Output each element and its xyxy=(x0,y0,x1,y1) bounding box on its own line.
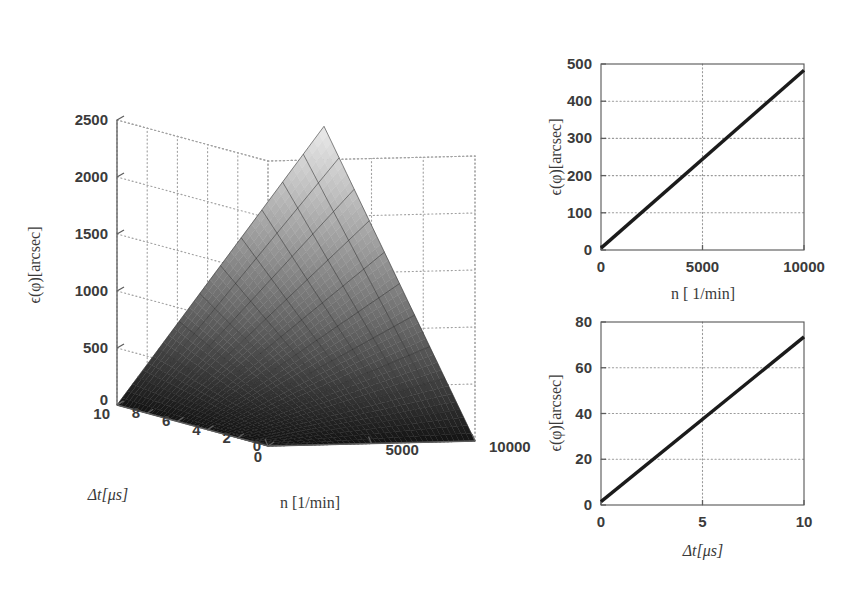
surface3d-ztick xyxy=(117,116,124,120)
line-dt-yaxis-label: ϵ(φ)[arcsec] xyxy=(547,375,565,452)
surface3d-yaxis-label: Δt[μs] xyxy=(87,486,129,504)
svg-text:6: 6 xyxy=(162,412,170,429)
surface3d-box-top xyxy=(117,120,475,161)
line-n-panel: 01002003004005000500010000 ϵ(φ)[arcsec] … xyxy=(547,55,825,302)
figure-canvas: 0500100015002000250002468100500010000 ϵ(… xyxy=(0,0,847,598)
svg-text:100: 100 xyxy=(567,204,592,221)
svg-text:60: 60 xyxy=(575,359,592,376)
svg-text:10: 10 xyxy=(93,405,110,422)
svg-text:20: 20 xyxy=(575,450,592,467)
svg-text:4: 4 xyxy=(192,421,201,438)
svg-text:0: 0 xyxy=(597,513,605,530)
surface3d-ztick xyxy=(117,230,124,234)
surface3d-panel: 0500100015002000250002468100500010000 ϵ(… xyxy=(26,111,531,511)
svg-text:2: 2 xyxy=(222,429,230,446)
line-n-xaxis-label: n [ 1/min] xyxy=(671,285,735,302)
svg-text:2000: 2000 xyxy=(75,168,108,185)
surface3d-ztick xyxy=(117,287,124,291)
svg-text:10000: 10000 xyxy=(489,438,531,455)
svg-text:0: 0 xyxy=(584,241,592,258)
svg-text:5000: 5000 xyxy=(686,258,719,275)
svg-text:500: 500 xyxy=(83,339,108,356)
svg-text:1500: 1500 xyxy=(75,225,108,242)
svg-text:400: 400 xyxy=(567,92,592,109)
line-n-yaxis-label: ϵ(φ)[arcsec] xyxy=(547,119,565,196)
matlab-figure-svg: 0500100015002000250002468100500010000 ϵ(… xyxy=(0,0,847,598)
svg-text:0: 0 xyxy=(254,448,262,465)
svg-text:8: 8 xyxy=(132,404,140,421)
svg-text:10: 10 xyxy=(796,513,813,530)
line-dt-xaxis-label: Δt[μs] xyxy=(682,542,724,560)
svg-text:0: 0 xyxy=(597,258,605,275)
line-dt-panel: 0204060800510 ϵ(φ)[arcsec] Δt[μs] xyxy=(547,313,812,560)
svg-text:200: 200 xyxy=(567,167,592,184)
svg-text:5: 5 xyxy=(698,513,706,530)
svg-text:0: 0 xyxy=(584,496,592,513)
svg-text:10000: 10000 xyxy=(783,258,825,275)
svg-text:1000: 1000 xyxy=(75,282,108,299)
surface3d-ztick xyxy=(117,173,124,177)
surface3d-zaxis-label: ϵ(φ)[arcsec] xyxy=(26,227,44,304)
line-dt-ticks: 0204060800510 xyxy=(575,313,812,530)
svg-text:40: 40 xyxy=(575,405,592,422)
surface3d-mesh xyxy=(117,126,475,446)
surface3d-grid-left-z xyxy=(117,177,268,218)
svg-text:80: 80 xyxy=(575,313,592,330)
surface3d-ztick xyxy=(117,344,124,348)
svg-text:2500: 2500 xyxy=(75,111,108,128)
svg-text:500: 500 xyxy=(567,55,592,72)
svg-text:5000: 5000 xyxy=(386,441,419,458)
svg-text:300: 300 xyxy=(567,129,592,146)
surface3d-xaxis-label: n [1/min] xyxy=(280,494,340,511)
